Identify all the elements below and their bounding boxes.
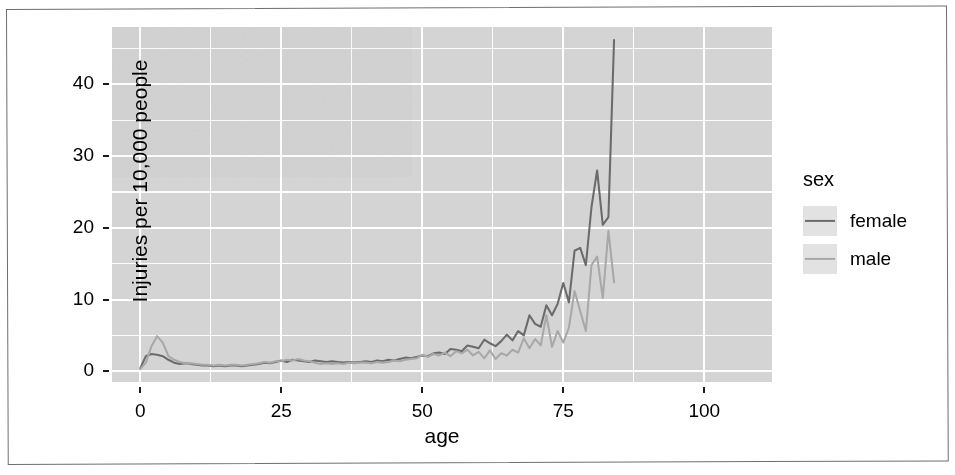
y-tick-mark: [103, 370, 109, 372]
x-tick-mark: [139, 387, 141, 393]
legend-key-female: [803, 206, 837, 236]
legend-item-female[interactable]: female: [803, 206, 933, 236]
series-line-male: [140, 231, 614, 369]
x-tick-label: 50: [382, 400, 462, 422]
x-tick-mark: [421, 387, 423, 393]
ggplot-figure: Injuries per 10,000 people 010203040 025…: [0, 0, 955, 475]
x-tick-mark: [562, 387, 564, 393]
x-tick-mark: [280, 387, 282, 393]
plot-panel-wrapper: Injuries per 10,000 people 010203040 025…: [112, 27, 772, 382]
legend-item-male[interactable]: male: [803, 244, 933, 274]
x-axis-title: age: [112, 424, 772, 448]
y-tick-label: 40: [46, 72, 94, 94]
legend-label-male: male: [850, 248, 891, 270]
x-tick-label: 25: [241, 400, 321, 422]
y-tick-mark: [103, 83, 109, 85]
legend-label-female: female: [850, 210, 907, 232]
figure-page: Injuries per 10,000 people 010203040 025…: [0, 0, 955, 475]
legend: sex femalemale: [803, 168, 933, 282]
x-tick-label: 0: [100, 400, 180, 422]
y-tick-label: 20: [46, 216, 94, 238]
y-axis-title: Injuries per 10,000 people: [128, 16, 152, 346]
series-line-female: [140, 40, 614, 368]
legend-key-male: [803, 244, 837, 274]
plot-panel: [112, 27, 772, 382]
y-tick-label: 30: [46, 144, 94, 166]
x-tick-mark: [703, 387, 705, 393]
y-tick-mark: [103, 299, 109, 301]
legend-items: femalemale: [803, 206, 933, 274]
series-lines: [112, 27, 772, 382]
x-tick-label: 100: [664, 400, 744, 422]
y-tick-label: 0: [46, 359, 94, 381]
legend-title: sex: [803, 168, 933, 191]
y-tick-mark: [103, 227, 109, 229]
y-tick-label: 10: [46, 288, 94, 310]
y-tick-mark: [103, 155, 109, 157]
x-tick-label: 75: [523, 400, 603, 422]
